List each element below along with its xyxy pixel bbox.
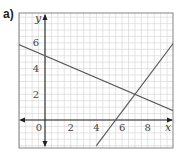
y-tick-label: 2 <box>33 89 39 100</box>
y-tick-label: 6 <box>33 37 39 48</box>
y-tick-label: 4 <box>33 63 39 74</box>
x-tick-label: 0 <box>36 122 42 133</box>
line-chart: 02468246xy <box>0 0 185 154</box>
x-axis-label: x <box>165 121 172 134</box>
x-tick-label: 8 <box>145 122 151 133</box>
y-axis-label: y <box>34 12 42 25</box>
x-axis-left-arrow-icon <box>19 118 25 123</box>
y-axis-down-arrow-icon <box>43 141 48 147</box>
x-tick-label: 4 <box>93 122 99 133</box>
x-tick-label: 6 <box>119 122 125 133</box>
x-tick-label: 2 <box>68 122 74 133</box>
